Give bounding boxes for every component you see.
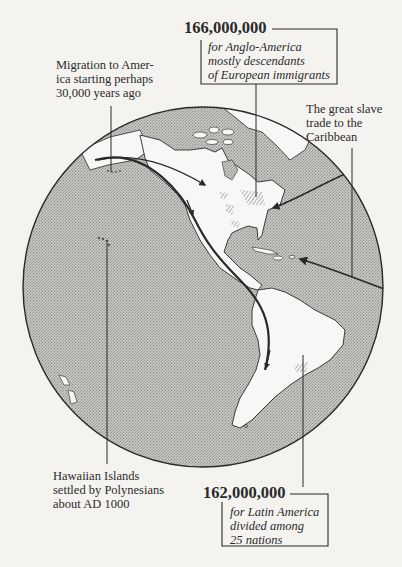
caption-line: mostly descendants (208, 54, 330, 68)
slave-trade-label: The great slave trade to the Caribbean (306, 102, 382, 144)
caption-line: ica starting perhaps (56, 72, 154, 86)
anglo-america-figure: 166,000,000 (184, 19, 269, 37)
caption-line: about AD 1000 (53, 497, 164, 511)
anglo-america-caption: for Anglo-America mostly descendants of … (208, 40, 330, 82)
latin-america-figure: 162,000,000 (203, 484, 288, 502)
caption-line: divided among (230, 519, 319, 533)
caption-line: of European immigrants (208, 68, 330, 82)
caption-line: The great slave (306, 102, 382, 116)
caption-line: for Latin America (230, 505, 319, 519)
caption-line: trade to the (306, 116, 382, 130)
caption-line: Caribbean (306, 130, 382, 144)
hawaii-label: Hawaiian Islands settled by Polynesians … (53, 469, 164, 511)
caption-line: 30,000 years ago (56, 86, 154, 100)
migration-label: Migration to Amer- ica starting perhaps … (56, 58, 154, 100)
caption-line: for Anglo-America (208, 40, 330, 54)
caption-line: 25 nations (230, 533, 319, 547)
caption-line: Hawaiian Islands (53, 469, 164, 483)
caption-line: settled by Polynesians (53, 483, 164, 497)
caption-line: Migration to Amer- (56, 58, 154, 72)
latin-america-caption: for Latin America divided among 25 natio… (230, 505, 319, 547)
